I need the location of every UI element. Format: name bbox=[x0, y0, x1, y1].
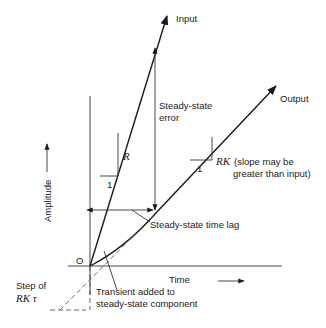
output-slope-note-1: (slope may be bbox=[234, 156, 294, 167]
step-label-1: Step of bbox=[16, 280, 46, 291]
input-slope-triangle bbox=[100, 133, 118, 176]
y-axis-label: Amplitude bbox=[42, 180, 53, 222]
output-slope-run-label: 1 bbox=[197, 163, 202, 174]
transient-leader bbox=[104, 251, 117, 290]
input-label: Input bbox=[176, 13, 197, 24]
output-slope-note-2: greater than input) bbox=[233, 168, 311, 179]
ramp-response-diagram: Input Output Steady-state error Steady-s… bbox=[0, 0, 326, 328]
steady-state-error-label-2: error bbox=[159, 112, 179, 123]
steady-state-error-label-1: Steady-state bbox=[159, 100, 212, 111]
time-lag-label: Steady-state time lag bbox=[150, 219, 239, 230]
input-slope-run-label: 1 bbox=[107, 179, 112, 190]
origin-label: O bbox=[76, 255, 83, 266]
output-label: Output bbox=[280, 93, 309, 104]
time-lag-leader bbox=[132, 210, 150, 222]
step-label-2: RK τ bbox=[15, 292, 38, 304]
x-axis-label: Time bbox=[169, 274, 190, 285]
transient-label-1: Transient added to bbox=[96, 286, 175, 297]
output-slope-rise-label: RK bbox=[215, 155, 231, 167]
input-slope-rise-label: R bbox=[122, 150, 130, 162]
transient-label-2: steady-state component bbox=[96, 298, 198, 309]
